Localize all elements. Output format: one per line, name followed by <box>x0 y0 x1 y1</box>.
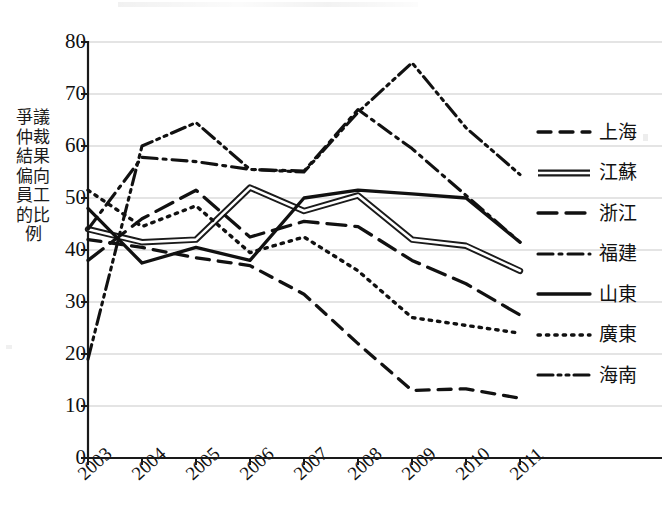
legend-line-sample <box>536 166 592 180</box>
legend-label: 浙江 <box>599 204 637 223</box>
legend-label: 江蘇 <box>599 163 637 182</box>
legend-item-江蘇[interactable]: 江蘇 <box>536 153 662 194</box>
legend-label: 上海 <box>599 123 637 142</box>
legend-label: 海南 <box>599 366 637 385</box>
legend-label: 山東 <box>599 285 637 304</box>
legend-line-sample <box>536 328 592 342</box>
legend-label: 福建 <box>599 244 637 263</box>
legend-item-福建[interactable]: 福建 <box>536 234 662 275</box>
series-line-山東 <box>88 190 520 263</box>
legend-item-山東[interactable]: 山東 <box>536 274 662 315</box>
legend-item-廣東[interactable]: 廣東 <box>536 315 662 356</box>
legend-line-sample <box>536 368 592 382</box>
chart-figure: 爭議仲裁結果偏向員工的比例 80706050403020100 20032004… <box>0 0 665 515</box>
legend-line-sample <box>536 247 592 261</box>
legend-line-sample <box>536 125 592 139</box>
legend-item-上海[interactable]: 上海 <box>536 112 662 153</box>
series-line-上海 <box>88 240 520 399</box>
chart-legend: 上海江蘇浙江福建山東廣東海南 <box>536 112 662 396</box>
legend-line-sample <box>536 287 592 301</box>
legend-item-浙江[interactable]: 浙江 <box>536 193 662 234</box>
legend-line-sample <box>536 206 592 220</box>
legend-item-海南[interactable]: 海南 <box>536 355 662 396</box>
legend-label: 廣東 <box>599 325 637 344</box>
